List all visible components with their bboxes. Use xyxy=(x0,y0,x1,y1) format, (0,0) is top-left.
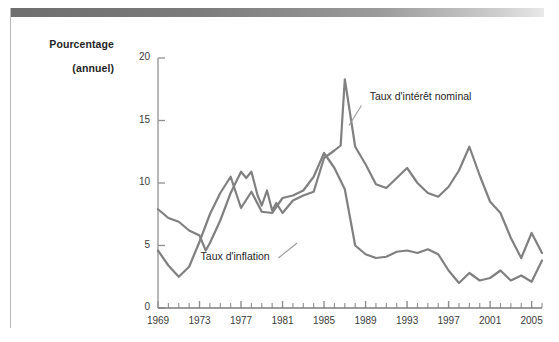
x-tick-label: 1969 xyxy=(141,315,175,326)
x-tick-label: 1989 xyxy=(349,315,383,326)
page-bottom-margin xyxy=(10,330,544,342)
x-tick-label: 1985 xyxy=(307,315,341,326)
x-tick-label: 2005 xyxy=(515,315,549,326)
x-tick-label: 1981 xyxy=(266,315,300,326)
x-tick-label: 1973 xyxy=(183,315,217,326)
y-axis-title-line2: (annuel) xyxy=(6,62,114,74)
series-line-nominal-interest-rate xyxy=(158,79,542,258)
y-tick-marks xyxy=(158,58,165,308)
page-header-bar xyxy=(10,8,544,17)
x-tick-label: 1993 xyxy=(390,315,424,326)
annotation-inflation-rate: Taux d'inflation xyxy=(201,250,270,262)
x-tick-marks xyxy=(158,301,542,308)
y-axis-title: Pourcentage (annuel) xyxy=(6,26,114,86)
y-tick-label: 10 xyxy=(128,176,150,187)
page-canvas: Pourcentage (annuel) 05101520 1969197319… xyxy=(0,0,559,342)
y-tick-label: 5 xyxy=(128,239,150,250)
annotation-nominal-interest-rate: Taux d'intérêt nominal xyxy=(370,90,472,102)
x-tick-label: 2001 xyxy=(473,315,507,326)
annotation-leader-line-inflation xyxy=(278,243,297,258)
series-line-inflation-rate xyxy=(158,153,542,283)
x-tick-label: 1997 xyxy=(432,315,466,326)
x-tick-label: 1977 xyxy=(224,315,258,326)
y-tick-label: 15 xyxy=(128,114,150,125)
chart-plot-area xyxy=(118,26,550,326)
y-axis-title-line1: Pourcentage xyxy=(6,38,114,50)
y-tick-label: 20 xyxy=(128,51,150,62)
line-chart: Pourcentage (annuel) 05101520 1969197319… xyxy=(118,26,550,326)
y-tick-label: 0 xyxy=(128,301,150,312)
